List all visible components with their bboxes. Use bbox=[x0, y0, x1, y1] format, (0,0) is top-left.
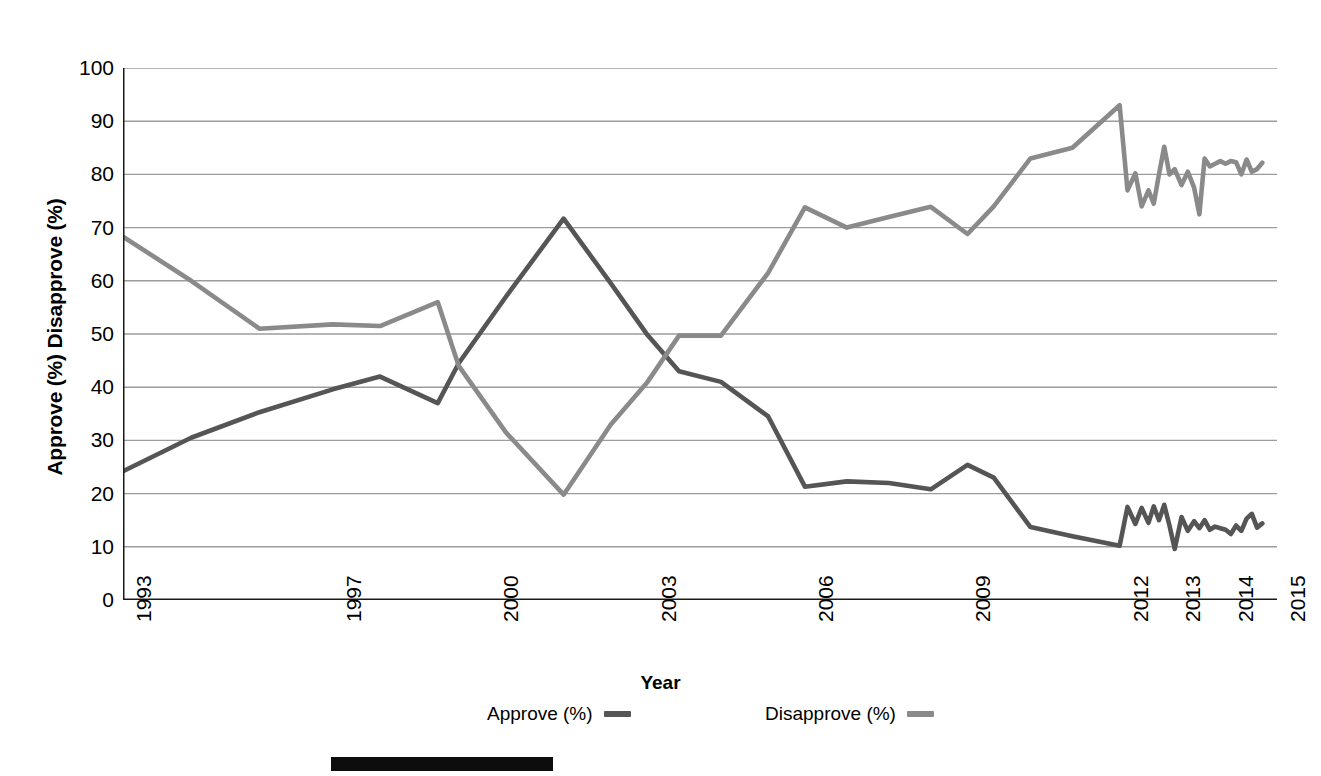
y-tick-label: 10 bbox=[54, 536, 114, 557]
line-chart-svg bbox=[123, 68, 1277, 600]
legend-item-approve[interactable]: Approve (%) bbox=[487, 703, 631, 725]
x-tick-label: 2014 bbox=[1234, 575, 1258, 622]
x-tick-label: 2003 bbox=[657, 575, 681, 622]
y-tick-label: 0 bbox=[54, 589, 114, 610]
x-tick-label: 2013 bbox=[1181, 575, 1205, 622]
y-tick-label: 60 bbox=[54, 270, 114, 291]
y-tick-label: 20 bbox=[54, 483, 114, 504]
gridlines bbox=[123, 68, 1277, 547]
chart-legend: Approve (%) Disapprove (%) bbox=[0, 703, 1321, 737]
x-tick-label: 2006 bbox=[814, 575, 838, 622]
legend-swatch-disapprove bbox=[907, 711, 934, 717]
x-tick-label: 2009 bbox=[971, 575, 995, 622]
y-tick-label: 30 bbox=[54, 429, 114, 450]
y-tick-label: 70 bbox=[54, 217, 114, 238]
x-tick-label: 2000 bbox=[499, 575, 523, 622]
legend-item-disapprove[interactable]: Disapprove (%) bbox=[765, 703, 934, 725]
chart-figure: Approve (%) Disapprove (%) 0102030405060… bbox=[0, 0, 1321, 776]
y-tick-label: 100 bbox=[54, 57, 114, 78]
x-tick-label: 2015 bbox=[1286, 575, 1310, 622]
y-tick-label: 50 bbox=[54, 323, 114, 344]
data-series-layer bbox=[123, 105, 1262, 549]
plot-area bbox=[123, 68, 1277, 600]
legend-label-disapprove: Disapprove (%) bbox=[765, 703, 896, 725]
black-bar-artifact bbox=[331, 757, 553, 771]
x-axis-title: Year bbox=[0, 672, 1321, 694]
series-line-approve bbox=[123, 219, 1262, 549]
y-tick-label: 80 bbox=[54, 163, 114, 184]
y-tick-label: 40 bbox=[54, 376, 114, 397]
y-tick-label: 90 bbox=[54, 110, 114, 131]
x-tick-label: 1997 bbox=[342, 575, 366, 622]
x-tick-label: 1993 bbox=[132, 575, 156, 622]
series-line-disapprove bbox=[123, 105, 1262, 494]
y-axis-tick-labels: 0102030405060708090100 bbox=[52, 0, 114, 776]
legend-swatch-approve bbox=[604, 711, 631, 717]
legend-label-approve: Approve (%) bbox=[487, 703, 593, 725]
x-tick-label: 2012 bbox=[1129, 575, 1153, 622]
